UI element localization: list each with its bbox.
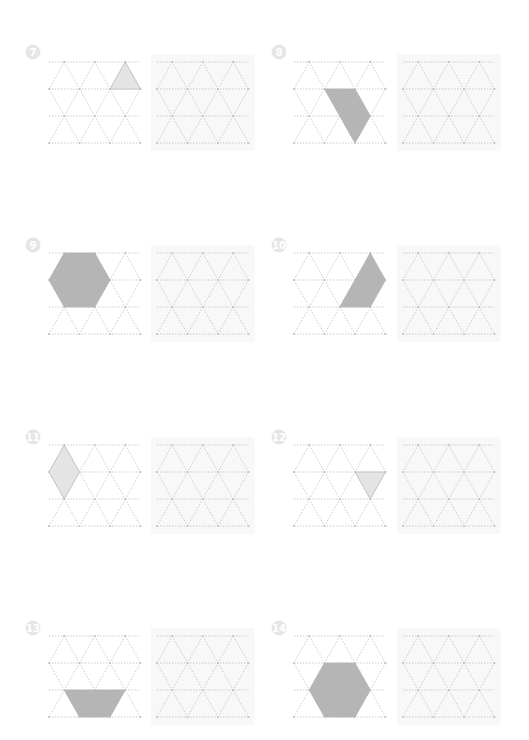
- grid-dot: [217, 333, 219, 335]
- problem-14: 14: [272, 621, 501, 726]
- grid-dot: [156, 662, 158, 664]
- copy-grid[interactable]: [397, 54, 501, 151]
- grid-dot: [293, 716, 295, 718]
- grid-dot: [417, 61, 419, 63]
- grid-dot: [293, 333, 295, 335]
- problem-number-badge: 13: [26, 621, 41, 636]
- copy-grid[interactable]: [151, 437, 255, 534]
- grid-dot: [186, 525, 188, 527]
- grid-dot: [308, 498, 310, 500]
- grid-dot: [432, 88, 434, 90]
- grid-dot: [478, 252, 480, 254]
- grid-dot: [78, 142, 80, 144]
- grid-dot: [369, 444, 371, 446]
- grid-dot: [369, 635, 371, 637]
- grid-dot: [432, 333, 434, 335]
- copy-grid[interactable]: [151, 54, 255, 151]
- grid-dot: [384, 716, 386, 718]
- copy-grid[interactable]: [151, 245, 255, 342]
- grid-dot: [124, 444, 126, 446]
- copy-area-background: [397, 54, 501, 151]
- shaded-hexagon-shape: [309, 663, 370, 717]
- grid-dot: [124, 252, 126, 254]
- grid-dot: [94, 61, 96, 63]
- copy-grid[interactable]: [151, 628, 255, 725]
- grid-dot: [417, 115, 419, 117]
- grid-dot: [171, 306, 173, 308]
- original-grid: [48, 635, 142, 718]
- grid-dot: [247, 333, 249, 335]
- grid-dot: [156, 88, 158, 90]
- grid-dot: [402, 471, 404, 473]
- problem-number-badge: 7: [26, 45, 41, 60]
- grid-dot: [493, 716, 495, 718]
- worksheet: 7891011121314: [0, 0, 529, 740]
- copy-grid[interactable]: [397, 437, 501, 534]
- grid-dot: [109, 333, 111, 335]
- grid-dot: [339, 252, 341, 254]
- grid-dot: [156, 716, 158, 718]
- problem-9: 9: [26, 238, 255, 343]
- grid-dot: [171, 444, 173, 446]
- grid-dot: [323, 525, 325, 527]
- grid-dot: [417, 252, 419, 254]
- grid-dot: [156, 142, 158, 144]
- copy-grid[interactable]: [397, 245, 501, 342]
- grid-dot: [48, 662, 50, 664]
- grid-dot: [402, 88, 404, 90]
- problem-number: 11: [26, 432, 40, 443]
- grid-dot: [232, 444, 234, 446]
- grid-dot: [232, 306, 234, 308]
- grid-dot: [232, 498, 234, 500]
- grid-dot: [63, 61, 65, 63]
- grid-dot: [384, 662, 386, 664]
- grid-dot: [217, 662, 219, 664]
- grid-dot: [493, 662, 495, 664]
- grid-dot: [432, 142, 434, 144]
- problem-7: 7: [26, 45, 255, 152]
- original-grid: [293, 252, 387, 335]
- grid-dot: [139, 142, 141, 144]
- grid-dot: [156, 471, 158, 473]
- grid-dot: [247, 525, 249, 527]
- grid-dot: [186, 142, 188, 144]
- grid-dot: [493, 333, 495, 335]
- grid-dot: [478, 115, 480, 117]
- grid-dot: [478, 61, 480, 63]
- grid-dot: [94, 115, 96, 117]
- grid-dot: [308, 115, 310, 117]
- grid-dot: [384, 142, 386, 144]
- grid-dot: [432, 716, 434, 718]
- grid-dot: [94, 498, 96, 500]
- grid-dot: [308, 444, 310, 446]
- grid-dot: [339, 635, 341, 637]
- grid-dot: [384, 333, 386, 335]
- shaded-hexagon-shape: [49, 253, 110, 307]
- grid-dot: [78, 333, 80, 335]
- copy-grid[interactable]: [397, 628, 501, 725]
- original-grid: [293, 635, 387, 718]
- grid-dot: [232, 635, 234, 637]
- problem-number: 8: [276, 47, 283, 58]
- grid-dot: [478, 498, 480, 500]
- grid-dot: [463, 716, 465, 718]
- grid-dot: [78, 662, 80, 664]
- grid-dot: [186, 716, 188, 718]
- problem-number-badge: 14: [272, 621, 287, 636]
- grid-dot: [124, 306, 126, 308]
- problem-8: 8: [272, 45, 501, 152]
- grid-dot: [402, 333, 404, 335]
- grid-dot: [339, 498, 341, 500]
- grid-dot: [48, 716, 50, 718]
- grid-dot: [109, 142, 111, 144]
- grid-dot: [402, 525, 404, 527]
- original-grid: [293, 444, 387, 527]
- grid-dot: [171, 498, 173, 500]
- grid-dot: [463, 471, 465, 473]
- grid-dot: [448, 444, 450, 446]
- grid-dot: [384, 525, 386, 527]
- copy-area-background: [397, 628, 501, 725]
- grid-dot: [186, 662, 188, 664]
- copy-area-background: [397, 245, 501, 342]
- grid-dot: [463, 662, 465, 664]
